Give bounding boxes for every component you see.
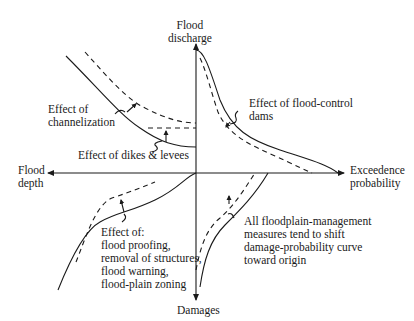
dikes-annotation: Effect of dikes & levees: [78, 149, 189, 162]
management-line: damage-probability curve: [244, 241, 371, 254]
nonstructural-line: flood-plain zoning: [101, 278, 202, 291]
x-axis-left-label: Flood depth: [18, 164, 45, 190]
y-top-label-line1: Flood: [168, 19, 212, 32]
diagram-canvas: [0, 0, 414, 321]
management-line: toward origin: [244, 254, 371, 267]
dams-line1: Effect of flood-control: [249, 97, 353, 110]
x-right-label-line2: probability: [350, 177, 405, 190]
channelization-line1: Effect of: [48, 103, 115, 116]
dams-line2: dams: [249, 110, 353, 123]
y-axis-top-label: Flood discharge: [168, 19, 212, 45]
nonstructural-line: Effect of:: [101, 226, 202, 239]
nonstructural-line: removal of structures,: [101, 252, 202, 265]
dams-annotation: Effect of flood-control dams: [249, 97, 353, 123]
x-right-label-line1: Exceedence: [350, 164, 405, 177]
management-annotation: All floodplain-management measures tend …: [244, 215, 371, 267]
x-left-label-line1: Flood: [18, 164, 45, 177]
nonstructural-annotation: Effect of: flood proofing, removal of st…: [101, 226, 202, 291]
nonstructural-line: flood proofing,: [101, 239, 202, 252]
stage-discharge-curve: [66, 56, 196, 147]
management-line: All floodplain-management: [244, 215, 371, 228]
management-line: measures tend to shift: [244, 228, 371, 241]
y-axis-bottom-label: Damages: [177, 304, 220, 317]
nonstructural-line: flood warning,: [101, 265, 202, 278]
channelization-line2: channelization: [48, 116, 115, 129]
x-left-label-line2: depth: [18, 177, 45, 190]
x-axis-right-label: Exceedence probability: [350, 164, 405, 190]
channelization-annotation: Effect of channelization: [48, 103, 115, 129]
y-top-label-line2: discharge: [168, 32, 212, 45]
